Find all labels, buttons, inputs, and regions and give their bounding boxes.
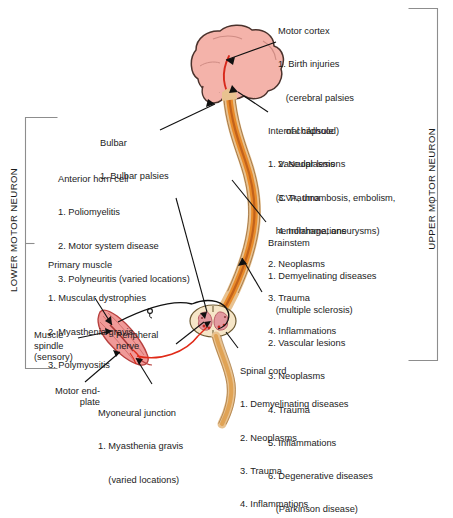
bracket-label-upper-motor-neuron: UPPER MOTOR NEURON	[426, 128, 437, 250]
brainstem-item-1a: (multiple sclerosis)	[268, 305, 377, 316]
primary-muscle-item-1: 1. Muscular dystrophies	[48, 293, 146, 304]
myoneural-item-1: 1. Myasthenia gravis	[98, 441, 183, 452]
bulbar-heading: Bulbar	[100, 138, 169, 149]
myoneural-heading: Myoneural junction	[98, 408, 183, 419]
label-spinal-cord: Spinal cord 1. Demyelinating diseases 2.…	[240, 344, 349, 518]
spinal-cord-item-1: 1. Demyelinating diseases	[240, 399, 349, 410]
internal-capsule-item-1: 1. Vascular lesions	[268, 159, 395, 170]
bracket-label-lower-motor-neuron: LOWER MOTOR NEURON	[8, 168, 19, 292]
spindle-receptor-icon	[148, 309, 153, 314]
spinal-cord-tract	[219, 90, 260, 317]
motor-cortex-heading: Motor cortex	[278, 26, 354, 37]
spinal-cord-cross-section	[190, 305, 236, 337]
label-muscle-spindle: Muscle spindle (sensory)	[34, 330, 73, 363]
anterior-horn-heading: Anterior horn cell	[58, 174, 190, 185]
spinal-cord-item-4: 4. Inflammations	[240, 499, 349, 510]
label-motor-end-plate: Motor end- plate	[28, 386, 100, 408]
myoneural-item-1a: (varied locations)	[98, 475, 183, 486]
primary-muscle-heading: Primary muscle	[48, 260, 146, 271]
label-myoneural-junction: Myoneural junction 1. Myasthenia gravis …	[98, 386, 183, 508]
internal-capsule-heading: Internal capsule	[268, 126, 395, 137]
cauda-equina-tail	[213, 335, 236, 424]
label-peripheral-nerve: Peripheral nerve	[116, 330, 158, 352]
motor-cortex-item-1: 1. Birth injuries	[278, 59, 354, 70]
label-primary-muscle: Primary muscle 1. Muscular dystrophies 2…	[48, 238, 146, 393]
spinal-cord-item-2: 2. Neoplasms	[240, 433, 349, 444]
brainstem-item-1: 1. Demyelinating diseases	[268, 271, 377, 282]
brainstem-heading: Brainstem	[268, 238, 377, 249]
motor-cortex-item-1a: (cerebral palsies	[278, 93, 354, 104]
brain-cerebrum	[191, 25, 283, 106]
internal-capsule-item-1a: (CVA, thrombosis, embolism,	[268, 193, 395, 204]
spinal-cord-heading: Spinal cord	[240, 366, 349, 377]
anterior-horn-item-1: 1. Poliomyelitis	[58, 207, 190, 218]
spinal-cord-item-3: 3. Trauma	[240, 466, 349, 477]
